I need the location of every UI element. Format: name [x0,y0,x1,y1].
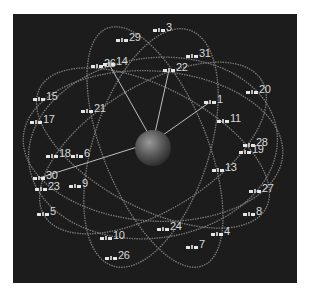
satellite-icon [246,90,258,94]
constellation-diagram: 3293114262220151211117281918613302392758… [13,14,297,283]
satellite-icon [100,236,112,240]
satellite-icon [163,68,175,72]
satellite-22[interactable]: 22 [163,66,188,74]
satellite-icon [239,150,251,154]
satellite-label: 18 [59,148,71,159]
satellite-26a[interactable]: 26 [91,62,116,70]
satellite-icon [33,97,45,101]
satellite-label: 26 [104,58,116,69]
earth-globe [135,130,171,166]
satellite-10[interactable]: 10 [100,234,125,242]
satellite-label: 31 [199,48,211,59]
satellite-label: 19 [252,144,264,155]
satellite-label: 3 [166,22,172,33]
satellite-27[interactable]: 27 [249,187,274,195]
satellite-label: 20 [259,84,271,95]
satellite-label: 15 [46,91,58,102]
satellite-26b[interactable]: 26 [105,254,130,262]
satellite-label: 9 [82,178,88,189]
satellite-icon [69,184,81,188]
satellite-label: 7 [199,239,205,250]
satellite-29[interactable]: 29 [116,36,141,44]
satellite-13[interactable]: 13 [212,166,237,174]
link-lines [39,64,210,178]
satellite-label: 14 [116,56,128,67]
satellite-24[interactable]: 24 [157,225,182,233]
satellite-icon [217,119,229,123]
satellite-label: 23 [48,181,60,192]
satellite-label: 26 [118,250,130,261]
satellite-15[interactable]: 15 [33,95,58,103]
satellite-icon [116,38,128,42]
satellite-label: 8 [256,206,262,217]
satellite-icon [105,256,117,260]
satellite-8[interactable]: 8 [243,210,262,218]
satellite-4[interactable]: 4 [211,230,230,238]
satellite-icon [37,212,49,216]
satellite-icon [186,245,198,249]
satellite-9[interactable]: 9 [69,182,88,190]
satellite-label: 10 [113,230,125,241]
satellite-icon [91,64,103,68]
satellite-icon [46,154,58,158]
satellite-18[interactable]: 18 [46,152,71,160]
satellite-label: 13 [225,162,237,173]
satellite-19[interactable]: 19 [239,148,264,156]
satellite-31[interactable]: 31 [186,52,211,60]
link-line [109,64,153,142]
satellite-label: 27 [262,183,274,194]
satellite-label: 1 [217,94,223,105]
satellite-23[interactable]: 23 [35,185,60,193]
satellite-icon [204,100,216,104]
satellite-icon [212,168,224,172]
satellite-icon [186,54,198,58]
satellite-11[interactable]: 11 [217,117,241,125]
satellite-label: 5 [50,206,56,217]
satellite-label: 30 [46,170,58,181]
satellite-5[interactable]: 5 [37,210,56,218]
satellite-label: 29 [129,32,141,43]
satellite-icon [81,109,93,113]
satellite-3[interactable]: 3 [153,26,172,34]
satellite-label: 21 [94,103,106,114]
satellite-20[interactable]: 20 [246,88,271,96]
satellite-label: 11 [230,113,241,124]
satellite-icon [211,232,223,236]
satellite-icon [30,120,42,124]
satellite-1[interactable]: 1 [204,98,223,106]
satellite-17[interactable]: 17 [30,118,55,126]
satellite-label: 4 [224,226,230,237]
satellite-icon [243,212,255,216]
satellite-icon [157,227,169,231]
satellite-icon [153,28,165,32]
satellite-icon [71,154,83,158]
satellite-label: 24 [170,221,182,232]
satellite-label: 6 [84,148,90,159]
satellite-7[interactable]: 7 [186,243,205,251]
satellite-icon [249,189,261,193]
satellite-icon [33,176,45,180]
satellite-6[interactable]: 6 [71,152,90,160]
satellite-21[interactable]: 21 [81,107,106,115]
satellite-label: 17 [43,114,55,125]
satellite-label: 22 [176,62,188,73]
satellite-icon [35,187,47,191]
